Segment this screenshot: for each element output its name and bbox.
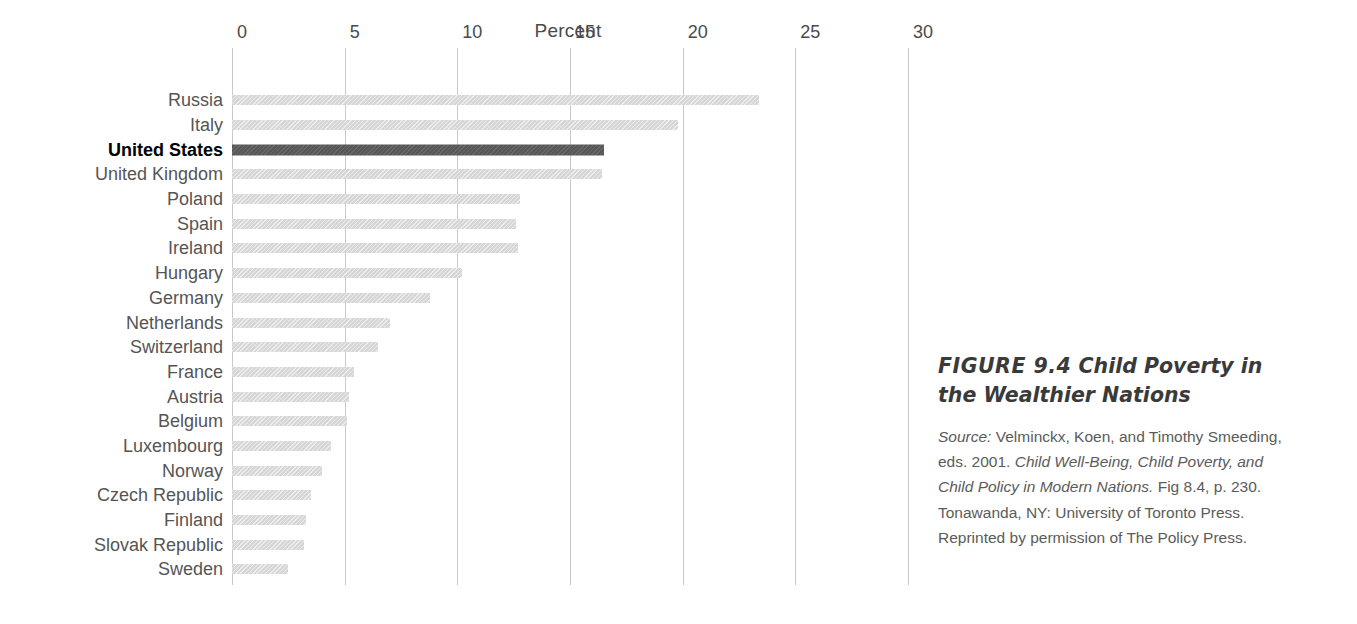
- figure-caption: FIGURE 9.4 Child Poverty in the Wealthie…: [938, 352, 1298, 550]
- bar-row: Ireland: [232, 236, 932, 261]
- bar-row: Slovak Republic: [232, 532, 932, 557]
- bar-row: Poland: [232, 187, 932, 212]
- bar: [232, 268, 462, 278]
- bar: [232, 392, 349, 402]
- bar-row-label: Finland: [164, 511, 223, 529]
- bar-row-label: United States: [108, 141, 223, 159]
- bar-row: Italy: [232, 113, 932, 138]
- bar-row: Austria: [232, 384, 932, 409]
- x-tick-label-0: 0: [232, 22, 247, 43]
- bar-row: Spain: [232, 211, 932, 236]
- bar-row: Switzerland: [232, 335, 932, 360]
- bar-row: Norway: [232, 458, 932, 483]
- bar: [232, 466, 322, 476]
- bar-row-label: Netherlands: [126, 314, 223, 332]
- bar: [232, 243, 518, 253]
- caption-figure-number: FIGURE 9.4: [938, 354, 1071, 378]
- bar-row: Hungary: [232, 261, 932, 286]
- x-tick-label-15: 15: [570, 22, 595, 43]
- bar-row-label: Norway: [162, 462, 223, 480]
- bar: [232, 441, 331, 451]
- bar-row-label: Russia: [168, 91, 223, 109]
- bar-rows: RussiaItalyUnited StatesUnited KingdomPo…: [232, 88, 932, 582]
- bar-row-label: Austria: [167, 388, 223, 406]
- bar-row-label: Czech Republic: [97, 486, 223, 504]
- bar-row-label: Ireland: [168, 239, 223, 257]
- bar-row: United States: [232, 137, 932, 162]
- bar: [232, 144, 604, 155]
- x-tick-label-25: 25: [795, 22, 820, 43]
- x-axis-title: Percent: [468, 20, 668, 42]
- bar-row-label: Italy: [190, 116, 223, 134]
- bar: [232, 416, 347, 426]
- bar-row-label: Poland: [167, 190, 223, 208]
- bar-row-label: Slovak Republic: [94, 536, 223, 554]
- bar: [232, 95, 759, 105]
- caption-source: Source: Velminckx, Koen, and Timothy Sme…: [938, 424, 1298, 550]
- bar-row: Czech Republic: [232, 483, 932, 508]
- bar-row-label: Switzerland: [130, 338, 223, 356]
- bar-row: Luxembourg: [232, 434, 932, 459]
- bar-row: Netherlands: [232, 310, 932, 335]
- bar: [232, 342, 378, 352]
- bar: [232, 120, 678, 130]
- x-tick-label-5: 5: [345, 22, 360, 43]
- caption-source-label: Source:: [938, 428, 991, 445]
- bar-row-label: Germany: [149, 289, 223, 307]
- bar-row-label: Spain: [177, 215, 223, 233]
- bar-row-label: Hungary: [155, 264, 223, 282]
- bar: [232, 318, 390, 328]
- bar: [232, 219, 516, 229]
- bar-row: France: [232, 360, 932, 385]
- bar-row-label: Sweden: [158, 560, 223, 578]
- bar: [232, 564, 288, 574]
- bar-row: Belgium: [232, 409, 932, 434]
- caption-title: FIGURE 9.4 Child Poverty in the Wealthie…: [938, 352, 1298, 410]
- bar: [232, 293, 430, 303]
- bar-row: Germany: [232, 286, 932, 311]
- bar-row-label: United Kingdom: [95, 165, 223, 183]
- bar-row-label: France: [167, 363, 223, 381]
- bar: [232, 515, 306, 525]
- bar-row: Russia: [232, 88, 932, 113]
- bar: [232, 169, 602, 179]
- bar: [232, 490, 311, 500]
- bar: [232, 367, 354, 377]
- bar-row: Sweden: [232, 557, 932, 582]
- figure-child-poverty: Percent 051015202530 RussiaItalyUnited S…: [0, 0, 1357, 624]
- bar: [232, 194, 520, 204]
- x-tick-label-10: 10: [457, 22, 482, 43]
- bar-row-label: Luxembourg: [123, 437, 223, 455]
- x-tick-label-20: 20: [683, 22, 708, 43]
- bar-row: Finland: [232, 508, 932, 533]
- bar-row-label: Belgium: [158, 412, 223, 430]
- bar-row: United Kingdom: [232, 162, 932, 187]
- x-tick-label-30: 30: [908, 22, 933, 43]
- bar: [232, 540, 304, 550]
